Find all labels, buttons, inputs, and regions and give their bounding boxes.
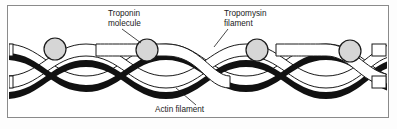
troponin-molecule (136, 39, 158, 61)
troponin-molecule (339, 40, 361, 62)
label-tropomyosin-line1: Tropomysin (224, 9, 267, 18)
cut-end-right-bottom (372, 76, 386, 88)
troponin-molecule (44, 38, 66, 60)
cut-end-left-top (9, 44, 13, 56)
label-tropomyosin-line2: filament (224, 19, 253, 28)
leader-line-tropomyosin (214, 29, 228, 47)
leader-line-troponin (122, 29, 141, 43)
actin-filament-diagram: Troponin molecule Tropomysin filament Ac… (0, 0, 397, 129)
label-troponin-line2: molecule (108, 19, 141, 28)
troponin-molecule (246, 39, 268, 61)
label-troponin-line1: Troponin (108, 9, 140, 18)
cut-end-right-top (372, 44, 386, 56)
label-actin-line1: Actin filament (155, 105, 205, 114)
cut-end-left-bottom (9, 76, 13, 88)
figure-page: Troponin molecule Tropomysin filament Ac… (0, 0, 397, 129)
